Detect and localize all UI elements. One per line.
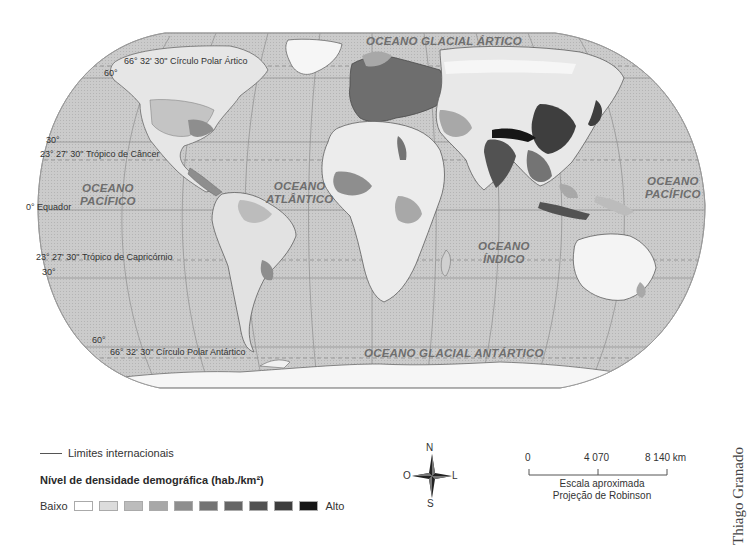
density-class-3 xyxy=(124,501,143,511)
lat-30s-label: 30° xyxy=(42,267,56,277)
tropic-cancer-label: 23° 27' 30" Trópico de Câncer xyxy=(40,149,160,159)
scale-caption-2: Projeção de Robinson xyxy=(528,490,676,501)
legend-density-title: Nível de densidade demográfica (hab./km²… xyxy=(40,474,264,486)
lat-60s-label: 60° xyxy=(92,335,106,345)
density-class-8 xyxy=(249,501,268,511)
boundary-line-swatch xyxy=(40,453,62,454)
tropic-capricorn-label: 23° 27' 30" Trópico de Capricórnio xyxy=(36,252,173,262)
compass-west: O xyxy=(403,470,411,481)
lat-30n-label: 30° xyxy=(46,135,60,145)
density-class-1 xyxy=(74,501,93,511)
scale-bar: 0 4 070 8 140 km Escala aproximada Proje… xyxy=(528,452,728,512)
ocean-label-pacific-east: OCEANO PACÍFICO xyxy=(645,175,701,201)
legend-boundary-label: Limites internacionais xyxy=(68,447,174,459)
ocean-label-atlantic: OCEANO ATLÂNTICO xyxy=(266,180,333,206)
density-class-5 xyxy=(174,501,193,511)
ocean-label-line: ÍNDICO xyxy=(478,253,530,266)
ocean-label-indian: OCEANO ÍNDICO xyxy=(478,240,530,266)
ocean-label-line: OCEANO xyxy=(266,180,333,193)
density-class-10 xyxy=(299,501,318,511)
equator-label: 0° Equador xyxy=(26,202,71,212)
ocean-label-line: PACÍFICO xyxy=(80,195,136,208)
ocean-label-antarctic: OCEANO GLACIAL ANTÁRTICO xyxy=(364,347,544,360)
legend-high-label: Alto xyxy=(326,500,345,512)
ocean-label-line: OCEANO xyxy=(478,240,530,253)
ocean-label-pacific-west: OCEANO PACÍFICO xyxy=(80,182,136,208)
author-credit: Thiago Granado xyxy=(730,447,747,545)
ocean-label-line: OCEANO xyxy=(645,175,701,188)
legend-low-label: Baixo xyxy=(40,500,68,512)
compass-south: S xyxy=(427,498,434,509)
legend-density-scale: Baixo Alto xyxy=(40,500,345,512)
density-class-4 xyxy=(149,501,168,511)
scale-tick-0: 0 xyxy=(525,452,531,463)
ocean-label-line: PACÍFICO xyxy=(645,188,701,201)
density-class-6 xyxy=(199,501,218,511)
legend-boundary: Limites internacionais xyxy=(40,447,174,459)
compass-rose: N O L S xyxy=(400,442,460,512)
compass-east: L xyxy=(452,470,458,481)
scale-tick-1: 4 070 xyxy=(584,452,609,463)
arctic-circle-label: 66° 32' 30" Círculo Polar Ártico xyxy=(124,56,248,66)
scale-caption-1: Escala aproximada xyxy=(528,478,676,489)
lat-60n-label: 60° xyxy=(104,68,118,78)
scale-bar-line xyxy=(528,467,678,477)
ocean-label-line: ATLÂNTICO xyxy=(266,193,333,206)
antarctic-circle-label: 66° 32' 30" Círculo Polar Antártico xyxy=(110,347,246,357)
ocean-label-arctic: OCEANO GLACIAL ÁRTICO xyxy=(366,35,522,48)
ocean-label-line: OCEANO xyxy=(80,182,136,195)
density-class-9 xyxy=(274,501,293,511)
compass-star-icon xyxy=(412,454,452,498)
scale-tick-2: 8 140 km xyxy=(645,452,686,463)
density-class-7 xyxy=(224,501,243,511)
density-class-2 xyxy=(99,501,118,511)
compass-north: N xyxy=(426,442,433,453)
